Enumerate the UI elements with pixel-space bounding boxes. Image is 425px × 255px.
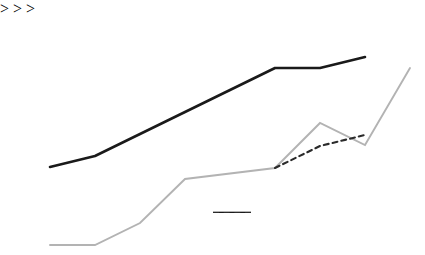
legend-line-light xyxy=(213,211,251,212)
plot-area xyxy=(50,11,418,167)
series-svg xyxy=(50,11,418,167)
series-line-modified-berry xyxy=(50,68,410,245)
series-line-simulated-annealing xyxy=(275,135,365,168)
series-line-reference xyxy=(50,57,365,167)
chart-root: > > > xyxy=(0,0,425,255)
